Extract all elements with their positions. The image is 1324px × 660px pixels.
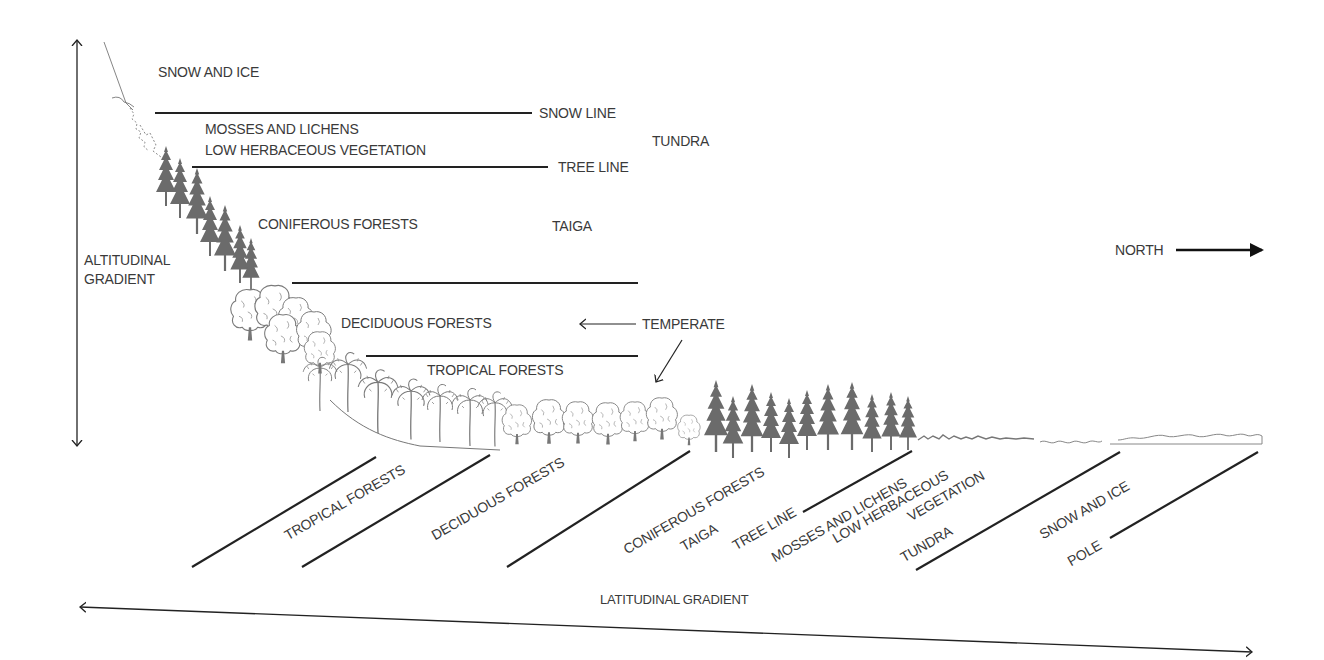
label-latitudinal-gradient: LATITUDINAL GRADIENT <box>600 591 748 608</box>
label-alt-snow-ice: SNOW AND ICE <box>158 64 259 81</box>
label-alt-tropical: TROPICAL FORESTS <box>427 362 563 379</box>
label-altitudinal-gradient: ALTITUDINAL GRADIENT <box>84 251 164 289</box>
label-alt-tundra: TUNDRA <box>652 133 709 150</box>
label-snow-line: SNOW LINE <box>539 105 616 122</box>
latitudinal-axis-arrow <box>80 607 1252 652</box>
tundra-ground <box>918 434 1262 444</box>
lowland-deciduous-trees <box>502 398 700 446</box>
label-north: NORTH <box>1115 242 1164 259</box>
mountain-deciduous-trees <box>231 285 336 373</box>
label-alt-taiga: TAIGA <box>552 218 592 235</box>
label-alt-coniferous: CONIFEROUS FORESTS <box>258 216 418 233</box>
label-alt-mosses: MOSSES AND LICHENS <box>205 121 359 138</box>
lowland-conifers <box>704 380 917 458</box>
label-alt-low-herb: LOW HERBACEOUS VEGETATION <box>205 142 426 159</box>
altitudinal-gradient-text: ALTITUDINAL GRADIENT <box>84 251 164 289</box>
vegetation-zone-diagram: SNOW AND ICE SNOW LINE MOSSES AND LICHEN… <box>0 0 1324 660</box>
label-alt-deciduous: DECIDUOUS FORESTS <box>341 315 492 332</box>
label-temperate: TEMPERATE <box>642 316 725 333</box>
mountain-peak <box>104 42 149 151</box>
label-tree-line: TREE LINE <box>558 159 629 176</box>
